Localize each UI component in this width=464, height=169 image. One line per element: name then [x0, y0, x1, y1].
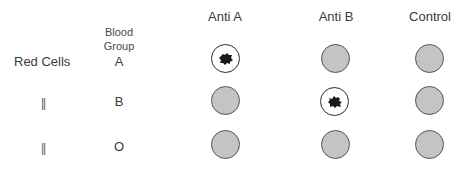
- blood-group-header-line2: Group: [89, 39, 149, 53]
- column-header-anti-a: Anti A: [185, 9, 265, 25]
- well-a-anti-a-agglutinated: [211, 44, 240, 73]
- well-a-control-negative: [415, 44, 444, 73]
- well-o-anti-a-negative: [211, 130, 240, 159]
- blood-group-header: Blood Group: [89, 25, 149, 53]
- well-b-control-negative: [415, 86, 444, 115]
- group-label-a: A: [104, 54, 134, 70]
- row-label-red-cells: Red Cells: [14, 54, 70, 70]
- agglutination-clump-icon: [219, 53, 233, 65]
- well-b-anti-a-negative: [211, 86, 240, 115]
- group-label-o: O: [104, 139, 134, 155]
- blood-group-header-line1: Blood: [89, 25, 149, 39]
- ditto-mark-row-o: ||: [38, 141, 48, 155]
- agglutination-clump-icon: [328, 96, 342, 108]
- ditto-mark-row-b: ||: [38, 96, 48, 110]
- group-label-b: B: [104, 94, 134, 110]
- well-o-control-negative: [415, 130, 444, 159]
- well-a-anti-b-negative: [321, 44, 350, 73]
- column-header-control: Control: [390, 9, 464, 25]
- column-header-anti-b: Anti B: [296, 9, 376, 25]
- well-o-anti-b-negative: [321, 130, 350, 159]
- well-b-anti-b-agglutinated: [320, 87, 349, 116]
